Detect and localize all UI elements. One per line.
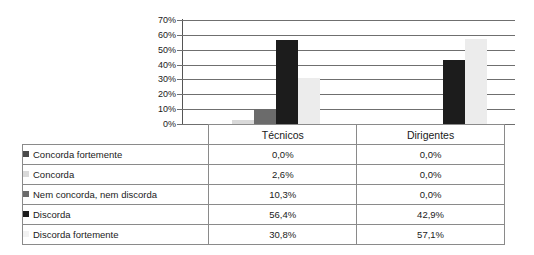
y-tick-label: 20% — [158, 90, 176, 99]
tick-mark — [177, 65, 182, 66]
table-cell-legend-label: Discorda — [23, 205, 209, 225]
table-cell-legend-label: Concorda fortemente — [23, 145, 209, 165]
tick-mark — [177, 109, 182, 110]
table-cell-tecnicos: 30,8% — [209, 225, 357, 245]
table-row: Discorda56,4%42,9% — [23, 205, 505, 225]
tick-mark — [177, 79, 182, 80]
table-cell-tecnicos: 10,3% — [209, 185, 357, 205]
tick-mark — [177, 94, 182, 95]
table-row: Nem concorda, nem discorda10,3%0,0% — [23, 185, 505, 205]
y-axis-tick-labels: 0%10%20%30%40%50%60%70% — [146, 12, 176, 132]
bar — [254, 109, 276, 124]
table-cell-legend-label: Concorda — [23, 165, 209, 185]
table-body: Concorda fortemente0,0%0,0%Concorda2,6%0… — [23, 145, 505, 245]
header-cell-tecnicos: Técnicos — [209, 125, 357, 145]
y-tick-label: 40% — [158, 61, 176, 70]
legend-label-text: Concorda fortemente — [33, 149, 122, 160]
gridline — [182, 35, 515, 36]
table-cell-tecnicos: 2,6% — [209, 165, 357, 185]
y-tick-label: 50% — [158, 46, 176, 55]
plot-area — [182, 20, 515, 124]
bar — [276, 40, 298, 124]
table-row: Concorda fortemente0,0%0,0% — [23, 145, 505, 165]
legend-label-text: Discorda — [33, 209, 71, 220]
tick-mark — [177, 20, 182, 21]
legend-swatch-icon — [23, 231, 29, 237]
y-tick-label: 10% — [158, 105, 176, 114]
header-cell-blank — [23, 125, 209, 145]
table-row: Discorda fortemente30,8%57,1% — [23, 225, 505, 245]
table-cell-dirigentes: 0,0% — [357, 145, 505, 165]
legend-label-text: Nem concorda, nem discorda — [33, 189, 157, 200]
table-cell-legend-label: Nem concorda, nem discorda — [23, 185, 209, 205]
table-header: Técnicos Dirigentes — [23, 125, 505, 145]
legend-label-text: Discorda fortemente — [33, 229, 119, 240]
y-tick-label: 70% — [158, 16, 176, 25]
table-cell-dirigentes: 57,1% — [357, 225, 505, 245]
table-row: Concorda2,6%0,0% — [23, 165, 505, 185]
legend-swatch-icon — [23, 191, 29, 197]
gridline — [182, 20, 515, 21]
header-cell-dirigentes: Dirigentes — [357, 125, 505, 145]
bar — [465, 39, 487, 124]
legend-swatch-icon — [23, 171, 29, 177]
table-cell-tecnicos: 56,4% — [209, 205, 357, 225]
bar — [443, 60, 465, 124]
tick-mark — [177, 35, 182, 36]
y-tick-label: 30% — [158, 75, 176, 84]
data-table: Técnicos Dirigentes Concorda fortemente0… — [22, 124, 505, 245]
table-cell-dirigentes: 0,0% — [357, 185, 505, 205]
legend-swatch-icon — [23, 151, 29, 157]
table-header-row: Técnicos Dirigentes — [23, 125, 505, 145]
table-cell-dirigentes: 0,0% — [357, 165, 505, 185]
table-cell-legend-label: Discorda fortemente — [23, 225, 209, 245]
bar — [298, 78, 320, 124]
y-tick-label: 60% — [158, 31, 176, 40]
table-cell-tecnicos: 0,0% — [209, 145, 357, 165]
legend-swatch-icon — [23, 211, 29, 217]
legend-label-text: Concorda — [33, 169, 74, 180]
chart-with-data-table: 0%10%20%30%40%50%60%70% Técnicos Dirigen… — [0, 0, 534, 255]
tick-mark — [177, 50, 182, 51]
table-cell-dirigentes: 42,9% — [357, 205, 505, 225]
